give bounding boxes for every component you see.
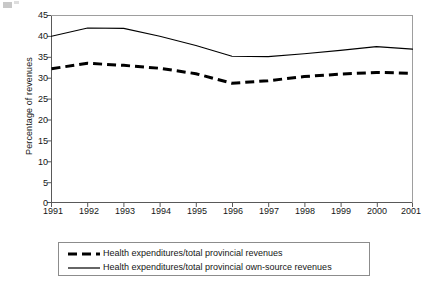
plot-area: Percentage of revenues 45 40 35 30 25 20…: [0, 0, 429, 232]
line-chart-canvas: [0, 0, 429, 232]
x-tick-label: 1993: [105, 206, 145, 216]
y-tick-label: 30: [26, 74, 48, 83]
y-tick-label: 15: [26, 137, 48, 146]
x-tick-label: 2001: [391, 206, 429, 216]
x-tick-label: 1999: [321, 206, 361, 216]
chart-legend: Health expenditures/total provincial rev…: [58, 242, 370, 276]
legend-entry-total-revenues: Health expenditures/total provincial rev…: [65, 247, 369, 260]
chart-figure: Percentage of revenues 45 40 35 30 25 20…: [0, 0, 429, 284]
legend-label: Health expenditures/total provincial own…: [103, 262, 332, 273]
y-tick-label: 25: [26, 95, 48, 104]
y-tick-label: 40: [26, 32, 48, 41]
y-tick-label: 20: [26, 116, 48, 125]
legend-label: Health expenditures/total provincial rev…: [103, 248, 283, 259]
x-tick-labels: 1991 1992 1993 1994 1995 1996 1997 1998 …: [0, 206, 429, 224]
dashed-line-key: [65, 248, 103, 260]
x-tick-label: 1995: [177, 206, 217, 216]
axis-frame: [51, 15, 413, 203]
x-tick-label: 1991: [33, 206, 73, 216]
x-tick-label: 1992: [69, 206, 109, 216]
y-tick-label: 5: [26, 179, 48, 188]
y-tick-label: 10: [26, 158, 48, 167]
x-tick-label: 1997: [249, 206, 289, 216]
solid-line-key: [65, 262, 103, 274]
y-tick-labels: 45 40 35 30 25 20 15 10 5 0: [24, 0, 48, 232]
y-tick-label: 45: [26, 11, 48, 20]
series-line-total-revenues: [52, 63, 413, 83]
x-tick-label: 1996: [213, 206, 253, 216]
x-tick-label: 1994: [141, 206, 181, 216]
series-line-own-source: [52, 28, 413, 57]
y-tick-label: 35: [26, 53, 48, 62]
legend-entry-own-source: Health expenditures/total provincial own…: [65, 261, 369, 274]
x-tick-label: 1998: [285, 206, 325, 216]
